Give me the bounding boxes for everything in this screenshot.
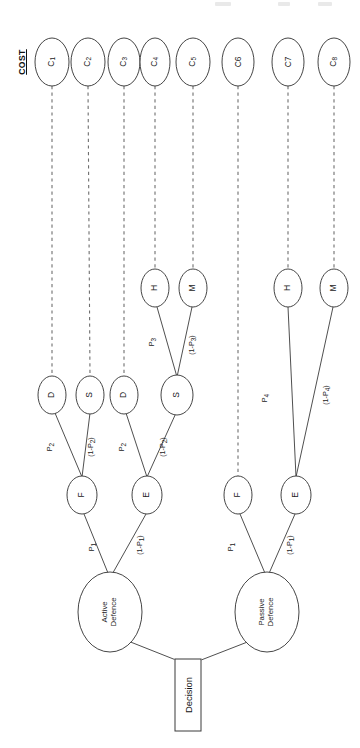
active-defence-node[interactable]: Active Defence [78, 572, 142, 652]
cost-node-c5-label: C5 [188, 57, 198, 67]
cost-node-c6[interactable]: C6 [222, 38, 254, 86]
decision-node-label: Decision [183, 677, 194, 713]
edge-activeE-D [126, 413, 147, 477]
hm-node-h1-label: H [150, 285, 160, 291]
ds-node-s1[interactable]: S [76, 376, 104, 414]
fe-node-e2[interactable]: E [281, 476, 311, 514]
edge-label-1mp3: (1-P3) [187, 335, 196, 355]
edge-passiveE-H [288, 307, 296, 477]
edge-label-1mp2-right: (1-P2) [158, 437, 167, 457]
edge-label-1mp1-active: (1-P1) [135, 535, 144, 555]
cost-node-c6-label: C6 [233, 57, 243, 68]
ds-node-d2[interactable]: D [110, 376, 138, 414]
cost-node-c7[interactable]: C7 [272, 38, 304, 86]
cost-node-c8[interactable]: C8 [318, 38, 350, 86]
cost-node-c1-label: C1 [47, 57, 57, 67]
ds-node-d1-label: D [47, 392, 57, 398]
cost-node-c2-label: C2 [83, 57, 93, 67]
hm-node-m1-label: M [188, 284, 198, 291]
hm-node-m2-label: M [329, 284, 339, 291]
decision-tree-diagram: COST C1 C2 C3 C4 C5 C6 C7 C8 H M H M D S [0, 0, 360, 748]
decision-node[interactable]: Decision [175, 659, 202, 732]
passive-defence-node[interactable]: Passive Defence [235, 572, 299, 652]
edge-label-p3: P3 [147, 338, 156, 346]
hm-node-h2[interactable]: H [274, 269, 302, 307]
ds-node-d1[interactable]: D [38, 376, 66, 414]
ds-node-s1-label: S [85, 392, 95, 398]
edge-passive-F [240, 514, 267, 578]
edge-label-p4: P4 [260, 394, 269, 402]
edge-label-p1-active: P1 [87, 543, 96, 551]
fe-node-f2-label: F [233, 492, 243, 497]
edge-label-1mp1-passive: (1-P1) [285, 535, 294, 555]
edge-activeF-D [55, 413, 82, 477]
cost-node-c4-label: C4 [150, 57, 160, 67]
fe-node-e1[interactable]: E [132, 476, 162, 514]
passive-defence-label: Passive Defence [258, 597, 276, 626]
cost-node-c3[interactable]: C3 [108, 38, 140, 86]
edge-S2-H [157, 307, 177, 377]
fe-node-e2-label: E [291, 492, 301, 498]
hm-node-m1[interactable]: M [179, 269, 207, 307]
fe-node-f1[interactable]: F [67, 476, 97, 514]
ds-node-s2[interactable]: S [161, 375, 193, 415]
cost-node-c4[interactable]: C4 [140, 38, 170, 86]
cost-node-c8-label: C8 [329, 57, 339, 67]
cost-node-c5[interactable]: C5 [176, 38, 210, 86]
hm-node-m2[interactable]: M [320, 269, 348, 307]
ds-node-s2-label: S [172, 392, 182, 398]
fe-node-f2[interactable]: F [224, 476, 252, 514]
active-defence-label: Active Defence [101, 597, 119, 626]
hm-node-h2-label: H [283, 285, 293, 291]
cost-node-c2[interactable]: C2 [71, 38, 105, 86]
ds-node-d2-label: D [119, 392, 129, 398]
edge-label-1mp2-left: (1-P2) [86, 437, 95, 457]
cost-node-c1[interactable]: C1 [35, 38, 69, 86]
fe-node-f1-label: F [77, 492, 87, 497]
edge-label-p2-left: P2 [45, 443, 54, 451]
cost-column-header: COST [17, 49, 27, 74]
edge-cost-c2 [88, 86, 90, 377]
cost-node-c7-label: C7 [283, 57, 293, 68]
edge-label-p1-passive: P1 [226, 543, 235, 551]
hm-node-h1[interactable]: H [141, 269, 169, 307]
edge-label-1mp4: (1-P4) [321, 385, 330, 405]
edge-label-p2-right: P2 [117, 443, 126, 451]
edges-layer [0, 0, 360, 748]
fe-node-e1-label: E [142, 492, 152, 498]
cost-node-c3-label: C3 [119, 57, 129, 67]
